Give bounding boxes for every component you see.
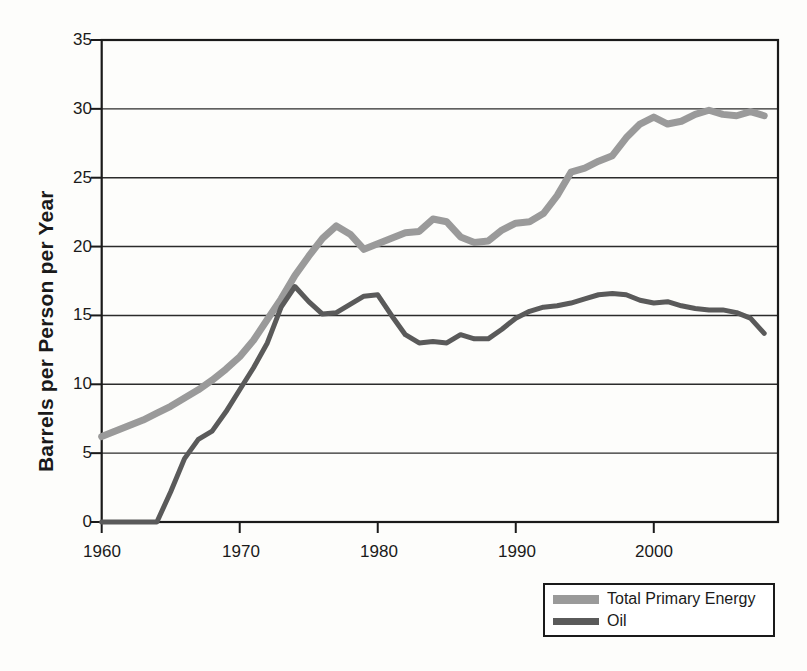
legend-swatch-oil: [553, 618, 599, 625]
plot-area: [0, 0, 807, 671]
gridlines: [102, 109, 778, 453]
axis-ticks: [91, 40, 654, 533]
legend-entry-oil: Oil: [553, 610, 627, 632]
chart-legend: Total Primary Energy Oil: [543, 583, 775, 637]
legend-swatch-total-primary-energy: [553, 595, 599, 604]
legend-entry-total-primary-energy: Total Primary Energy: [553, 588, 756, 610]
legend-label-total-primary-energy: Total Primary Energy: [607, 590, 756, 608]
legend-label-oil: Oil: [607, 612, 627, 630]
chart-figure: Barrels per Person per Year 35 30 25 20 …: [0, 0, 807, 671]
axis-frame: [102, 40, 778, 522]
series-line: [102, 287, 765, 522]
series-line: [102, 110, 765, 436]
